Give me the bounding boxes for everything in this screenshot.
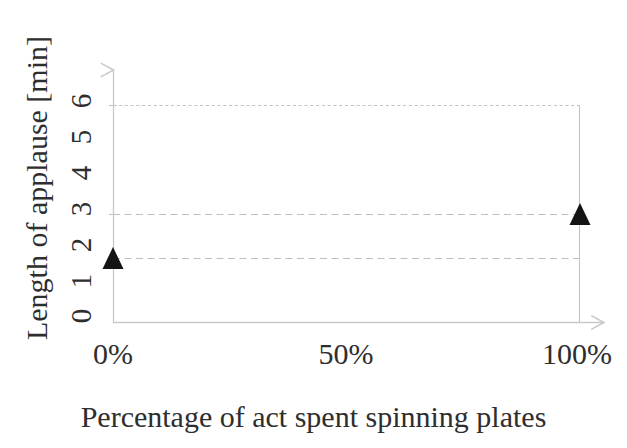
x-tick-label-0: 0% — [48, 336, 178, 372]
data-point-marker-100pct — [570, 203, 591, 225]
x-tick-label-50: 50% — [281, 336, 411, 372]
data-point-marker-0pct — [103, 247, 124, 269]
plot-area — [0, 0, 627, 448]
chart-figure: Length of applause [min] 0 1 2 3 4 5 6 — [0, 0, 627, 448]
x-tick-label-100: 100% — [512, 336, 627, 372]
x-axis-title: Percentage of act spent spinning plates — [0, 396, 627, 438]
